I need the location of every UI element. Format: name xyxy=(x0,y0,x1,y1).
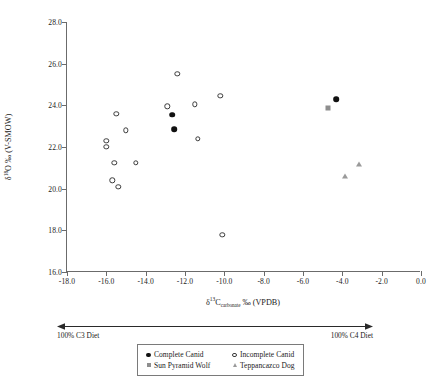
y-tick-label: 22.0 xyxy=(48,143,62,152)
x-axis-unit: ‰ (VPDB) xyxy=(240,298,280,307)
x-axis-subscript: carbonate xyxy=(221,302,241,308)
filled-circle-icon xyxy=(144,353,153,357)
data-point xyxy=(192,102,197,107)
x-tick-label: -12.0 xyxy=(177,277,193,286)
x-tick-label: -4.0 xyxy=(336,277,348,286)
data-point xyxy=(195,136,200,141)
data-point xyxy=(342,174,348,179)
x-tick-label: -14.0 xyxy=(137,277,153,286)
data-point xyxy=(171,126,177,132)
legend-label: Complete Canid xyxy=(154,350,204,359)
x-tick xyxy=(342,271,343,276)
plot-area: 16.018.020.022.024.026.028.0 -18.0-16.0-… xyxy=(66,22,420,272)
diet-label-c3: 100% C3 Diet xyxy=(57,331,99,340)
legend-row: Sun Pyramid WolfTeppancazco Dog xyxy=(144,361,296,370)
y-tick xyxy=(62,22,67,23)
x-tick-label: -8.0 xyxy=(257,277,269,286)
diet-label-c4: 100% C4 Diet xyxy=(331,331,373,340)
data-point xyxy=(165,104,170,109)
data-point xyxy=(111,160,116,165)
y-tick-label: 28.0 xyxy=(48,18,62,27)
data-point xyxy=(123,128,128,133)
y-axis-delta: δ xyxy=(4,176,13,180)
open-circle-icon xyxy=(230,353,239,357)
data-point xyxy=(169,112,175,118)
marker-glyph xyxy=(146,353,150,357)
x-tick-label: 0.0 xyxy=(416,277,426,286)
data-point xyxy=(356,161,362,166)
data-point xyxy=(133,160,138,165)
legend-item-complete-canid: Complete Canid xyxy=(144,350,230,359)
marker-glyph xyxy=(233,363,237,367)
y-tick xyxy=(62,230,67,231)
y-tick xyxy=(62,147,67,148)
triangle-icon xyxy=(230,363,239,367)
y-tick-label: 26.0 xyxy=(48,59,62,68)
data-point xyxy=(218,93,223,98)
x-tick-label: -6.0 xyxy=(297,277,309,286)
diet-gradient-arrow xyxy=(57,322,373,331)
marker-glyph xyxy=(232,353,236,357)
x-tick xyxy=(106,271,107,276)
y-tick xyxy=(62,105,67,106)
x-tick-label: -16.0 xyxy=(98,277,114,286)
x-tick xyxy=(224,271,225,276)
data-point xyxy=(113,111,118,116)
data-point xyxy=(220,232,225,237)
legend-label: Sun Pyramid Wolf xyxy=(154,361,210,370)
legend-label: Incomplete Canid xyxy=(240,350,294,359)
x-axis-title: δ13Ccarbonate ‰ (VPDB) xyxy=(206,296,280,308)
y-axis-superscript: 18 xyxy=(3,171,9,176)
square-icon xyxy=(144,363,153,367)
y-tick-label: 24.0 xyxy=(48,101,62,110)
data-point xyxy=(334,96,340,102)
legend-item-teppancazco-dog: Teppancazco Dog xyxy=(230,361,295,370)
y-tick-label: 16.0 xyxy=(48,268,62,277)
chart-legend: Complete CanidIncomplete CanidSun Pyrami… xyxy=(137,344,304,376)
x-tick-label: -10.0 xyxy=(216,277,232,286)
legend-item-incomplete-canid: Incomplete Canid xyxy=(230,350,294,359)
legend-row: Complete CanidIncomplete Canid xyxy=(144,350,296,359)
y-tick-label: 18.0 xyxy=(48,226,62,235)
data-point xyxy=(104,144,109,149)
y-axis-unit: O ‰ (V-SMOW) xyxy=(4,114,13,171)
legend-label: Teppancazco Dog xyxy=(240,361,295,370)
y-tick xyxy=(62,189,67,190)
chart-figure: 16.018.020.022.024.026.028.0 -18.0-16.0-… xyxy=(0,0,436,390)
y-tick-label: 20.0 xyxy=(48,184,62,193)
data-point xyxy=(325,106,330,111)
x-tick xyxy=(67,271,68,276)
x-tick-label: -18.0 xyxy=(59,277,75,286)
x-tick xyxy=(303,271,304,276)
x-tick xyxy=(382,271,383,276)
x-tick-label: -2.0 xyxy=(375,277,387,286)
data-point xyxy=(104,138,109,143)
marker-glyph xyxy=(147,363,151,367)
data-point xyxy=(115,184,120,189)
x-tick xyxy=(146,271,147,276)
y-tick xyxy=(62,64,67,65)
data-point xyxy=(174,71,179,76)
x-tick xyxy=(421,271,422,276)
data-point xyxy=(110,178,115,183)
x-tick xyxy=(185,271,186,276)
x-tick xyxy=(264,271,265,276)
y-axis-title: δ18O ‰ (V-SMOW) xyxy=(3,114,14,180)
legend-item-sun-pyramid-wolf: Sun Pyramid Wolf xyxy=(144,361,230,370)
